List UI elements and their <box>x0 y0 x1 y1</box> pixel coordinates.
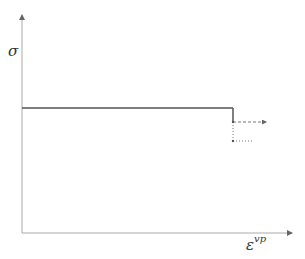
x-axis-label-superscript: vp <box>254 233 267 244</box>
point-upper <box>232 121 234 123</box>
x-axis-label: εvp <box>246 233 267 254</box>
diagram-canvas: σ εvp <box>0 0 305 259</box>
y-axis-label: σ <box>8 42 19 60</box>
x-axis-label-base: ε <box>246 236 254 254</box>
point-lower <box>232 140 234 142</box>
